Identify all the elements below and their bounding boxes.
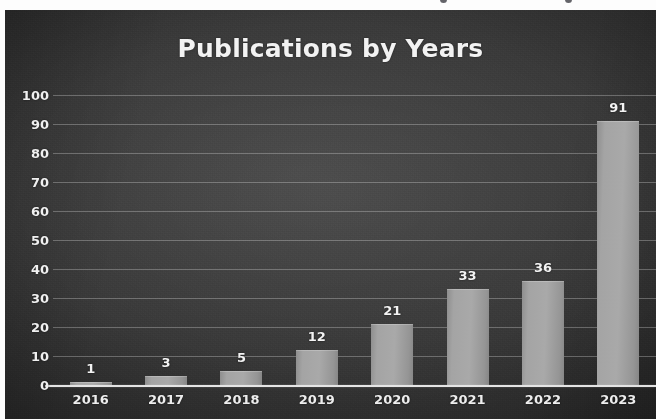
bar-slot: 36 xyxy=(505,95,580,385)
x-axis-tick-label: 2017 xyxy=(128,393,203,406)
x-axis-tick-label: 2020 xyxy=(355,393,430,406)
bar xyxy=(597,121,639,385)
bar xyxy=(371,324,413,385)
bar-slot: 33 xyxy=(430,95,505,385)
y-axis-tick-label: 100 xyxy=(11,89,49,102)
clipped-text-above-figure xyxy=(0,0,656,9)
bar-chart-figure: Publications by Years 100908070605040302… xyxy=(5,10,656,419)
bar-value-label: 1 xyxy=(86,362,95,375)
bar-value-label: 21 xyxy=(383,304,401,317)
x-axis-baseline xyxy=(45,385,656,387)
x-axis-tick-label: 2016 xyxy=(53,393,128,406)
bar-slot: 5 xyxy=(204,95,279,385)
bar xyxy=(447,289,489,385)
bar-slot: 21 xyxy=(355,95,430,385)
x-axis-tick-labels: 20162017201820192020202120222023 xyxy=(53,393,656,419)
y-axis-tick-label: 70 xyxy=(11,176,49,189)
y-axis-tick-label: 60 xyxy=(11,205,49,218)
y-axis-tick-label: 80 xyxy=(11,147,49,160)
bar xyxy=(522,281,564,385)
y-axis-tick-labels: 1009080706050403020100 xyxy=(5,95,49,385)
x-axis-tick-label: 2023 xyxy=(581,393,656,406)
x-axis-tick-label: 2021 xyxy=(430,393,505,406)
scanned-page: Publications by Years 100908070605040302… xyxy=(0,0,656,419)
bar-value-label: 3 xyxy=(162,356,171,369)
bar-slot: 1 xyxy=(53,95,128,385)
x-axis-tick-label: 2018 xyxy=(204,393,279,406)
bar-value-label: 36 xyxy=(534,261,552,274)
bar-value-label: 91 xyxy=(609,101,627,114)
y-axis-tick-label: 50 xyxy=(11,234,49,247)
y-axis-tick-label: 40 xyxy=(11,263,49,276)
y-axis-tick-label: 20 xyxy=(11,321,49,334)
y-axis-tick-label: 30 xyxy=(11,292,49,305)
bar xyxy=(145,376,187,385)
bar xyxy=(296,350,338,385)
bar-value-label: 33 xyxy=(459,269,477,282)
bar xyxy=(220,371,262,386)
plot-area: 1351221333691 xyxy=(53,95,656,385)
x-axis-tick-label: 2019 xyxy=(279,393,354,406)
x-axis-tick-label: 2022 xyxy=(505,393,580,406)
bar-value-label: 5 xyxy=(237,351,246,364)
clipped-glyph-descender xyxy=(440,0,447,3)
bar-slot: 3 xyxy=(128,95,203,385)
y-axis-tick-label: 0 xyxy=(11,379,49,392)
clipped-glyph-descender xyxy=(565,0,572,3)
y-axis-tick-label: 90 xyxy=(11,118,49,131)
bar-slot: 91 xyxy=(581,95,656,385)
y-axis-tick-label: 10 xyxy=(11,350,49,363)
bar-slot: 12 xyxy=(279,95,354,385)
chart-title: Publications by Years xyxy=(5,34,656,63)
bar-value-label: 12 xyxy=(308,330,326,343)
